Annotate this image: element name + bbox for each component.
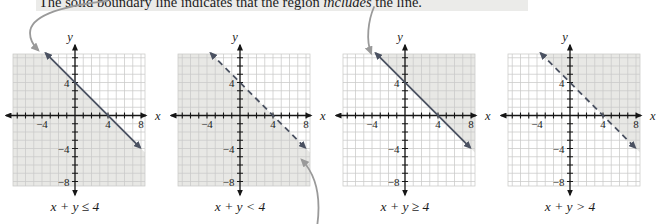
- x-axis-label: x: [484, 109, 491, 123]
- x-tick-label: 8: [138, 118, 144, 130]
- x-tick-label: −4: [366, 118, 378, 130]
- shaded-region: [13, 54, 145, 186]
- y-tick-label: 4: [64, 77, 70, 89]
- graph-panel-2: −4484−4−8xyx + y < 4: [165, 30, 335, 224]
- y-tick-label: 4: [229, 77, 235, 89]
- y-tick-label: −4: [553, 143, 565, 155]
- y-tick-label: 4: [394, 77, 400, 89]
- inequality-label: x + y ≤ 4: [50, 199, 100, 214]
- x-tick-label: 8: [303, 118, 309, 130]
- y-axis-label: y: [560, 30, 568, 44]
- y-tick-label: −8: [553, 176, 565, 188]
- x-tick-label: 8: [468, 118, 474, 130]
- x-tick-label: 4: [435, 118, 441, 130]
- x-tick-label: −4: [531, 118, 543, 130]
- x-tick-label: −4: [201, 118, 213, 130]
- inequality-label: x + y ≥ 4: [380, 199, 430, 214]
- x-tick-label: −4: [36, 118, 48, 130]
- inequality-label: x + y > 4: [544, 199, 596, 214]
- y-tick-label: −4: [58, 143, 70, 155]
- graph-panel-4: −4484−4−8xyx + y > 4: [495, 30, 660, 224]
- x-axis-label: x: [154, 109, 161, 123]
- y-tick-label: −4: [223, 143, 235, 155]
- graph-panel-1: −4484−4−8xyx + y ≤ 4: [0, 30, 170, 224]
- y-axis-label: y: [65, 30, 73, 44]
- x-tick-label: 4: [105, 118, 111, 130]
- y-axis-label: y: [395, 30, 403, 44]
- x-axis-label: x: [649, 109, 656, 123]
- x-tick-label: 4: [600, 118, 606, 130]
- y-tick-label: −8: [58, 176, 70, 188]
- shaded-region: [178, 54, 310, 186]
- x-axis-label: x: [319, 109, 326, 123]
- y-tick-label: −8: [223, 176, 235, 188]
- y-tick-label: 4: [559, 77, 565, 89]
- x-tick-label: 4: [270, 118, 276, 130]
- y-tick-label: −8: [388, 176, 400, 188]
- x-tick-label: 8: [633, 118, 639, 130]
- y-tick-label: −4: [388, 143, 400, 155]
- graph-panel-3: −4484−4−8xyx + y ≥ 4: [330, 30, 500, 224]
- inequality-label: x + y < 4: [214, 199, 266, 214]
- y-axis-label: y: [230, 30, 238, 44]
